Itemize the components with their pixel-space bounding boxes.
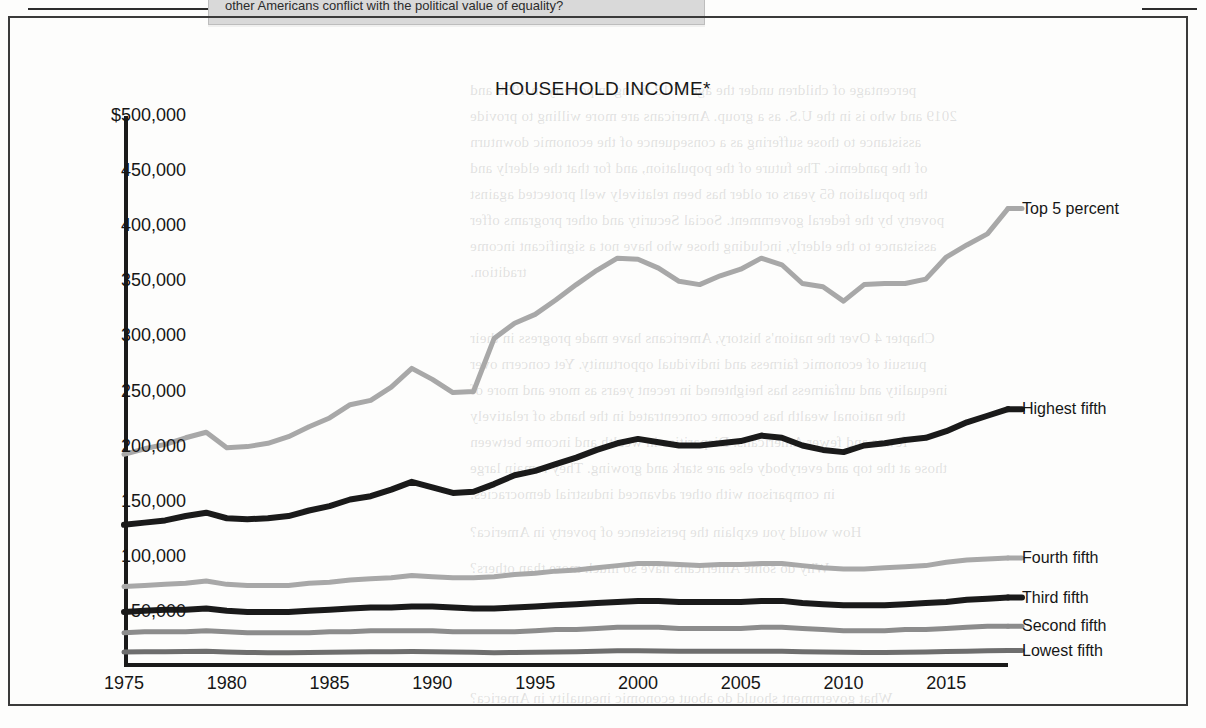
x-tick-label: 1990 <box>412 673 452 694</box>
x-tick-label: 2015 <box>926 673 966 694</box>
series-line <box>124 626 1008 633</box>
x-tick-label: 2010 <box>824 673 864 694</box>
x-tick-label: 1985 <box>310 673 350 694</box>
chart-title: HOUSEHOLD INCOME* <box>0 78 1206 100</box>
series-line <box>124 558 1008 587</box>
series-line <box>124 598 1008 612</box>
x-tick-label: 2005 <box>721 673 761 694</box>
series-line <box>124 651 1008 653</box>
plot-area <box>124 116 1008 667</box>
series-label-third-fifth: Third fifth <box>1022 589 1089 607</box>
y-tick-value: 250,000 <box>121 381 186 402</box>
series-label-top-5-percent: Top 5 percent <box>1022 200 1119 218</box>
y-tick-value: 150,000 <box>121 491 186 512</box>
top-rule-left <box>28 8 213 10</box>
y-tick-value: 300,000 <box>121 325 186 346</box>
y-tick-value: 400,000 <box>121 215 186 236</box>
y-tick-value: 450,000 <box>121 160 186 181</box>
excerpt-callout-text: other Americans conflict with the politi… <box>225 0 695 14</box>
x-tick-label: 1980 <box>207 673 247 694</box>
y-tick-value: 50,000 <box>131 601 186 622</box>
y-tick-value: $500,000 <box>111 105 186 126</box>
series-label-second-fifth: Second fifth <box>1022 617 1107 635</box>
series-lines <box>124 116 1008 667</box>
y-tick-value: 350,000 <box>121 270 186 291</box>
x-tick-label: 1995 <box>515 673 555 694</box>
y-tick-value: 100,000 <box>121 546 186 567</box>
series-line <box>124 409 1008 525</box>
x-tick-label: 2000 <box>618 673 658 694</box>
series-line <box>124 209 1008 455</box>
series-label-highest-fifth: Highest fifth <box>1022 400 1106 418</box>
top-rule-right <box>1142 8 1197 10</box>
y-tick-value: 200,000 <box>121 436 186 457</box>
series-label-lowest-fifth: Lowest fifth <box>1022 642 1103 660</box>
series-label-fourth-fifth: Fourth fifth <box>1022 549 1098 567</box>
x-tick-label: 1975 <box>104 673 144 694</box>
